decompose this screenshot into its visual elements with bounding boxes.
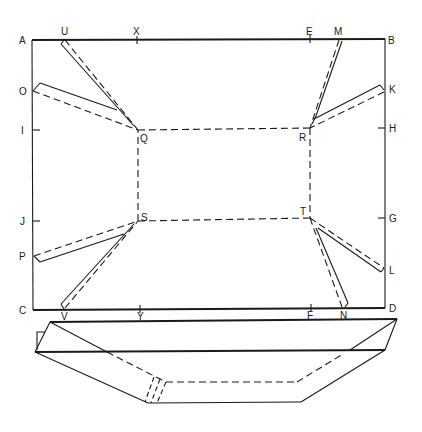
label-G: G xyxy=(389,213,397,224)
label-H: H xyxy=(389,123,396,134)
tray-left-inner-slope xyxy=(50,322,107,352)
tray-net-diagram: A U X E M B O I J P C K H G L D V Y F N … xyxy=(0,0,422,432)
label-L: L xyxy=(389,265,395,276)
gusset-LT xyxy=(310,218,384,272)
tray-left-inner-slope-hidden xyxy=(107,352,166,382)
label-X: X xyxy=(133,26,140,37)
edge-AB xyxy=(32,39,385,40)
tray-right-end xyxy=(385,319,397,350)
gusset-OQ xyxy=(33,83,138,130)
label-C: C xyxy=(19,305,26,316)
fold-TS xyxy=(138,218,310,221)
label-P: P xyxy=(19,251,26,262)
tray-right-outer-slope xyxy=(301,350,385,402)
label-R: R xyxy=(299,132,306,143)
tray-seam-3 xyxy=(157,382,166,403)
tray-left-outer-slope xyxy=(35,352,148,403)
gusset-MR xyxy=(310,40,342,128)
label-O: O xyxy=(19,86,27,97)
label-T: T xyxy=(300,206,306,217)
label-I: I xyxy=(21,125,24,136)
label-V: V xyxy=(61,311,68,322)
gusset-KR xyxy=(310,85,384,128)
label-E: E xyxy=(306,26,313,37)
label-Q: Q xyxy=(140,133,148,144)
tick-marks xyxy=(33,35,385,313)
label-D: D xyxy=(389,303,396,314)
label-J: J xyxy=(20,216,25,227)
tray-front-rim xyxy=(35,350,385,352)
outer-sheet xyxy=(32,39,385,310)
tray-right-gusset xyxy=(350,319,397,350)
label-U: U xyxy=(61,26,68,37)
gusset-UQ xyxy=(61,40,138,130)
label-M: M xyxy=(334,26,342,37)
tray-base-edge xyxy=(148,402,301,403)
tray-right-inner-slope-hidden xyxy=(297,354,343,382)
label-A: A xyxy=(19,35,26,46)
label-B: B xyxy=(388,35,395,46)
fold-QR xyxy=(138,128,310,130)
gusset-PS xyxy=(34,221,138,262)
label-S: S xyxy=(141,212,148,223)
fold-rectangle xyxy=(138,128,310,221)
edge-CD xyxy=(33,308,385,310)
edge-AC xyxy=(32,40,33,310)
tray-3d-view xyxy=(35,319,397,403)
label-K: K xyxy=(389,84,396,95)
point-labels: A U X E M B O I J P C K H G L D V Y F N … xyxy=(19,26,397,322)
diagram-canvas: A U X E M B O I J P C K H G L D V Y F N … xyxy=(0,0,422,432)
